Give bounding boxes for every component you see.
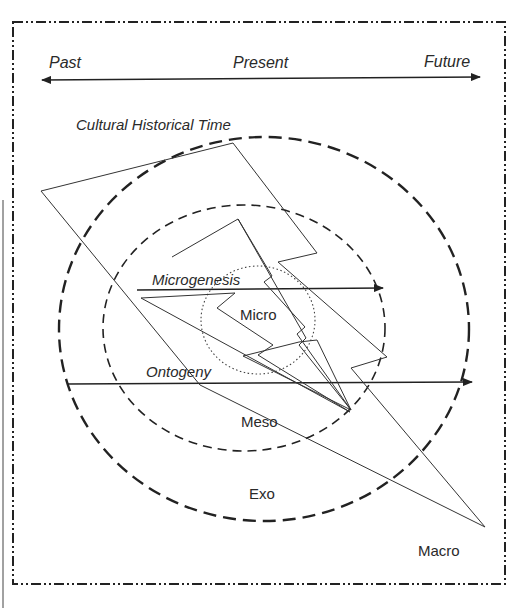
exo-circle <box>59 137 469 521</box>
past-label: Past <box>49 55 81 71</box>
microgenesis-arrow <box>137 288 383 290</box>
microgenesis-label: Microgenesis <box>152 272 240 287</box>
macro-zigzag <box>41 143 485 527</box>
macro-label: Macro <box>418 543 460 558</box>
micro-label: Micro <box>240 307 277 322</box>
present-label: Present <box>233 55 288 71</box>
cultural-historical-time-label: Cultural Historical Time <box>76 117 231 132</box>
time-arrow <box>42 77 480 80</box>
ontogeny-arrow <box>68 382 472 384</box>
diagram-canvas <box>0 0 521 608</box>
future-label: Future <box>424 54 470 70</box>
ontogeny-label: Ontogeny <box>146 364 211 379</box>
exo-label: Exo <box>249 486 275 501</box>
meso-label: Meso <box>241 414 278 429</box>
